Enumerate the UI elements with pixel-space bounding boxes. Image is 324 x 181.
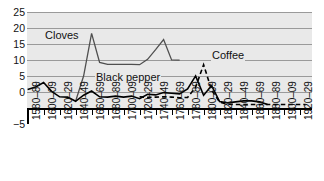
x-tick-1640-49	[76, 109, 77, 115]
series-label-coffee: Coffee	[211, 50, 245, 61]
x-tick-1840-49	[236, 109, 237, 115]
x-tick-1900-09	[284, 109, 285, 115]
x-tick-1660-69	[92, 109, 93, 115]
x-tick-1760-69	[172, 109, 173, 115]
x-tick-1620-29	[60, 109, 61, 115]
x-tick-label-1640-49: 1640–49	[80, 81, 90, 120]
x-tick-label-1760-69: 1760–69	[176, 81, 186, 120]
x-tick-1680-89	[108, 109, 109, 115]
x-tick-label-1720-29: 1720–29	[144, 81, 154, 120]
x-tick-label-1800-09: 1800–09	[208, 81, 218, 120]
x-tick-label-1860-69: 1860–69	[256, 81, 266, 120]
x-tick-label-1600-09: 1600–09	[48, 81, 58, 120]
x-tick-1580-89	[28, 109, 29, 115]
x-tick-label-1920-29: 1920–29	[304, 81, 314, 120]
x-tick-label-1880-89: 1880–89	[272, 81, 282, 120]
x-tick-label-1660-69: 1660–69	[96, 81, 106, 120]
x-tick-label-1780-89: 1780–89	[192, 81, 202, 120]
x-tick-1720-29	[140, 109, 141, 115]
x-tick-1820-29	[220, 109, 221, 115]
x-tick-1780-89	[188, 109, 189, 115]
x-tick-label-1840-49: 1840–49	[240, 81, 250, 120]
x-tick-label-1740-49: 1740–49	[160, 81, 170, 120]
x-tick-label-1680-89: 1680–89	[112, 81, 122, 120]
x-tick-label-1820-29: 1820–29	[224, 81, 234, 120]
x-tick-1920-29	[300, 109, 301, 115]
x-tick-label-1700-09: 1700–09	[128, 81, 138, 120]
x-tick-1880-89	[268, 109, 269, 115]
x-tick-1860-69	[252, 109, 253, 115]
chart-container: 25 20 15 10 5 0 −5 Cloves Black pepper C…	[0, 0, 324, 181]
x-tick-1800-09	[204, 109, 205, 115]
x-tick-1600-09	[44, 109, 45, 115]
x-tick-label-1900-09: 1900–09	[288, 81, 298, 120]
x-tick-1700-09	[124, 109, 125, 115]
x-tick-1740-49	[156, 109, 157, 115]
x-tick-label-1580-89: 1580–89	[32, 81, 42, 120]
x-tick-label-1620-29: 1620–29	[64, 81, 74, 120]
series-label-cloves: Cloves	[44, 30, 80, 41]
